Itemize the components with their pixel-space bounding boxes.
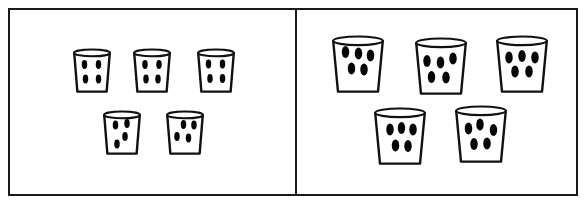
left-panel xyxy=(0,0,296,209)
cup xyxy=(103,110,141,155)
cup-rim xyxy=(74,50,110,57)
counter-dot xyxy=(155,75,160,84)
counter-dot xyxy=(409,123,416,135)
cup-body xyxy=(167,115,203,154)
counter-dot xyxy=(96,60,101,69)
counter-dot xyxy=(465,122,472,134)
counter-dot xyxy=(386,123,393,135)
cup xyxy=(133,48,171,93)
counter-dot xyxy=(186,134,191,143)
counter-dot xyxy=(490,124,497,136)
cup xyxy=(332,35,384,93)
counter-dot xyxy=(449,52,456,64)
cup xyxy=(73,48,111,93)
counter-dot xyxy=(113,121,118,130)
cup-rim xyxy=(104,112,140,119)
counter-dot xyxy=(142,60,147,69)
counter-dot xyxy=(191,121,196,130)
counter-dot xyxy=(470,138,477,150)
cup-rim xyxy=(416,39,466,48)
cup-rim xyxy=(375,109,425,118)
counter-dot xyxy=(423,55,430,67)
counter-dot xyxy=(355,47,362,59)
counter-dot xyxy=(442,71,449,83)
counter-dot xyxy=(505,51,512,63)
cup-body xyxy=(497,41,547,92)
cup-rim xyxy=(456,107,506,116)
counter-dot xyxy=(342,46,349,58)
cup-body xyxy=(198,53,234,92)
cup-body xyxy=(375,113,425,164)
cup-body xyxy=(74,53,110,92)
counter-dot xyxy=(174,132,179,141)
counter-dot xyxy=(392,139,399,151)
counter-dot xyxy=(511,65,518,77)
counter-dot xyxy=(476,118,483,130)
counter-dot xyxy=(143,75,148,84)
counter-dot xyxy=(220,74,225,83)
counter-dot xyxy=(96,75,101,84)
counter-dot xyxy=(220,60,225,69)
counter-dot xyxy=(82,60,87,69)
counter-dot xyxy=(483,137,490,149)
cup-rim xyxy=(167,112,203,119)
counter-dot xyxy=(531,51,538,63)
cup xyxy=(415,37,467,95)
counter-dot xyxy=(181,120,186,129)
counter-dot xyxy=(156,60,161,69)
cup-rim xyxy=(497,37,547,46)
cup-rim xyxy=(198,50,234,57)
cup-body xyxy=(134,53,170,92)
counter-dot xyxy=(206,60,211,69)
cup xyxy=(455,105,507,163)
counter-dot xyxy=(360,63,367,75)
counter-dot xyxy=(207,74,212,83)
counter-dot xyxy=(122,132,127,141)
counter-dot xyxy=(437,56,444,68)
cup-rim xyxy=(134,50,170,57)
counter-dot xyxy=(398,122,405,134)
cup xyxy=(166,110,204,155)
cup xyxy=(496,35,548,93)
counter-dot xyxy=(518,50,525,62)
counter-dot xyxy=(114,140,119,149)
illustration-canvas xyxy=(0,0,588,209)
counter-dot xyxy=(124,119,129,128)
cup-rim xyxy=(333,37,383,46)
counter-dot xyxy=(404,140,411,152)
cup xyxy=(374,107,426,165)
cup-body xyxy=(456,111,506,162)
cup xyxy=(197,48,235,93)
counter-dot xyxy=(525,65,532,77)
cup-body xyxy=(104,115,140,154)
right-panel xyxy=(296,0,588,209)
counter-dot xyxy=(367,49,374,61)
counter-dot xyxy=(83,75,88,84)
counter-dot xyxy=(348,62,355,74)
counter-dot xyxy=(428,71,435,83)
